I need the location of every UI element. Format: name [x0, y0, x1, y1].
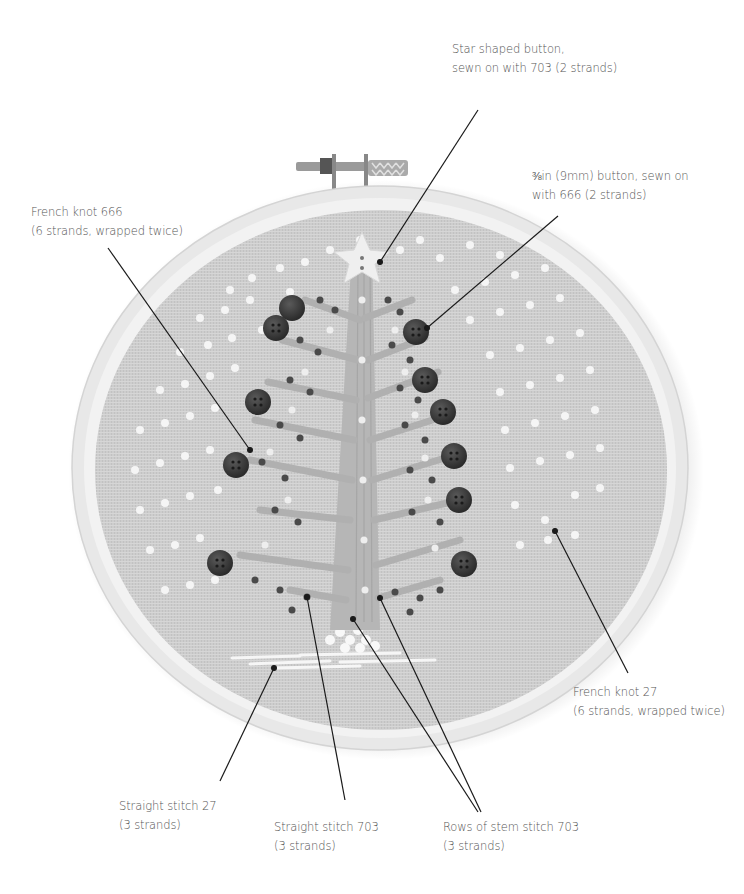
- embroidery-hoop-illustration: [0, 0, 744, 894]
- label-line-1: Straight stitch 703: [274, 818, 379, 837]
- label-small-button: ⅜in (9mm) button, sewn on with 666 (2 st…: [532, 167, 689, 205]
- button-icon: [207, 550, 233, 576]
- label-line-2: (3 strands): [274, 837, 379, 856]
- label-line-2: (3 strands): [119, 816, 216, 835]
- button-icon: [223, 452, 249, 478]
- button-icon: [446, 487, 472, 513]
- button-icon: [451, 551, 477, 577]
- label-line-1: Rows of stem stitch 703: [443, 818, 579, 837]
- label-line-1: French knot 27: [573, 683, 725, 702]
- button-icon: [245, 389, 271, 415]
- label-line-2: (6 strands, wrapped twice): [573, 702, 725, 721]
- embroidery-diagram: Star shaped button, sewn on with 703 (2 …: [0, 0, 744, 894]
- label-line-2: sewn on with 703 (2 strands): [452, 59, 617, 78]
- button-icon: [412, 367, 438, 393]
- label-line-1: Star shaped button,: [452, 40, 617, 59]
- button-icon: [403, 319, 429, 345]
- button-icon: [430, 399, 456, 425]
- button-icon: [279, 295, 305, 321]
- label-line-1: ⅜in (9mm) button, sewn on: [532, 167, 689, 186]
- label-french-knot-27: French knot 27 (6 strands, wrapped twice…: [573, 683, 725, 721]
- label-french-knot-666: French knot 666 (6 strands, wrapped twic…: [31, 203, 183, 241]
- label-line-1: French knot 666: [31, 203, 183, 222]
- label-line-2: with 666 (2 strands): [532, 186, 689, 205]
- label-straight-stitch-27: Straight stitch 27 (3 strands): [119, 797, 216, 835]
- label-line-2: (3 strands): [443, 837, 579, 856]
- label-straight-stitch-703: Straight stitch 703 (3 strands): [274, 818, 379, 856]
- label-line-1: Straight stitch 27: [119, 797, 216, 816]
- label-star-button: Star shaped button, sewn on with 703 (2 …: [452, 40, 617, 78]
- label-line-2: (6 strands, wrapped twice): [31, 222, 183, 241]
- button-icon: [441, 443, 467, 469]
- label-stem-stitch-703: Rows of stem stitch 703 (3 strands): [443, 818, 579, 856]
